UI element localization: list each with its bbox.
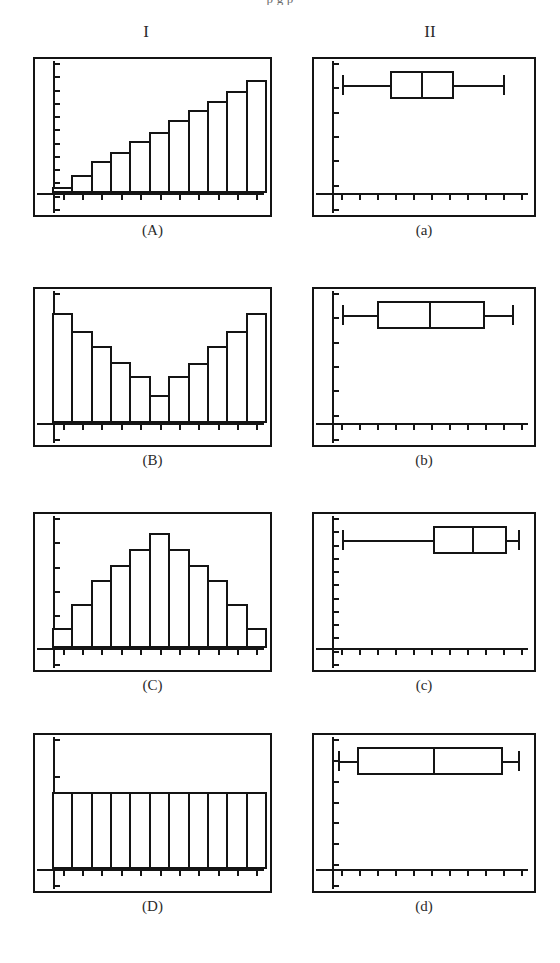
chart-panel-b (312, 287, 536, 447)
y-tick (334, 545, 339, 547)
x-tick (413, 425, 415, 430)
histogram-bar (129, 141, 150, 193)
x-tick (413, 650, 415, 655)
histogram-bar (188, 110, 209, 193)
histogram-bar (168, 792, 189, 869)
x-tick (218, 871, 220, 876)
plot-area-b (332, 295, 530, 423)
x-tick (218, 650, 220, 655)
plot-area-A (53, 65, 266, 193)
x-tick (449, 425, 451, 430)
y-tick (334, 822, 339, 824)
x-tick (121, 650, 123, 655)
histogram-bar (188, 565, 209, 648)
boxplot-max-cap (518, 530, 520, 550)
x-tick (63, 425, 65, 430)
y-tick (55, 156, 60, 158)
y-tick (55, 63, 60, 65)
x-tick (503, 195, 505, 200)
x-tick (341, 425, 343, 430)
y-tick (55, 518, 60, 520)
histogram-bar (110, 362, 131, 423)
y-tick (55, 567, 60, 569)
histogram-bar (168, 549, 189, 648)
histogram-bar (207, 792, 228, 869)
boxplot-min-cap (342, 305, 344, 325)
boxplot-max-cap (503, 75, 505, 95)
x-tick (256, 871, 258, 876)
y-tick (55, 664, 60, 666)
x-tick (413, 871, 415, 876)
histogram-bar (168, 120, 189, 193)
y-tick (334, 843, 339, 845)
y-tick (334, 558, 339, 560)
y-tick (334, 209, 339, 211)
histogram-bar (91, 792, 112, 869)
y-tick (334, 293, 339, 295)
x-tick (237, 650, 239, 655)
column-header-I: I (126, 22, 166, 42)
y-tick (55, 591, 60, 593)
x-tick (179, 871, 181, 876)
histogram-bar (226, 604, 247, 648)
histogram-bar (149, 533, 170, 648)
histogram-bar (91, 346, 112, 423)
histogram-bar (71, 792, 92, 869)
plot-area-C (53, 520, 266, 648)
y-tick (55, 542, 60, 544)
x-tick (467, 425, 469, 430)
y-tick (55, 76, 60, 78)
x-tick (521, 650, 523, 655)
x-tick (237, 871, 239, 876)
panel-caption-A: (A) (33, 222, 272, 239)
x-tick (431, 425, 433, 430)
histogram-bar (207, 346, 228, 423)
x-tick (359, 650, 361, 655)
histogram-bar (207, 101, 228, 193)
chart-panel-D (33, 733, 272, 893)
histogram-bar (246, 792, 267, 869)
x-tick (521, 195, 523, 200)
x-tick (218, 195, 220, 200)
x-tick (101, 195, 103, 200)
histogram-bar (226, 91, 247, 193)
y-tick (55, 615, 60, 617)
x-tick (140, 871, 142, 876)
histogram-bar (168, 376, 189, 423)
x-axis-A (37, 193, 264, 195)
x-tick (485, 650, 487, 655)
panel-caption-a: (a) (312, 222, 536, 239)
x-axis-C (37, 648, 264, 650)
y-tick (334, 185, 339, 187)
x-tick (160, 871, 162, 876)
x-axis-c (316, 648, 528, 650)
histogram-bar (188, 363, 209, 423)
histogram-bar (207, 580, 228, 648)
chart-panel-A (33, 57, 272, 217)
x-tick (179, 425, 181, 430)
histogram-bar (110, 565, 131, 648)
y-tick (55, 182, 60, 184)
y-tick (334, 624, 339, 626)
histogram-bar (52, 313, 73, 423)
chart-panel-c (312, 512, 536, 672)
x-tick (503, 425, 505, 430)
y-tick (334, 390, 339, 392)
x-tick (521, 871, 523, 876)
y-tick (55, 116, 60, 118)
chart-panel-B (33, 287, 272, 447)
x-tick (121, 871, 123, 876)
y-tick (55, 739, 60, 741)
histogram-bar (91, 580, 112, 648)
x-tick (121, 195, 123, 200)
y-tick (334, 739, 339, 741)
x-axis-D (37, 869, 264, 871)
x-tick (341, 871, 343, 876)
boxplot-min-cap (342, 75, 344, 95)
x-tick (63, 871, 65, 876)
boxplot-box (433, 526, 507, 554)
x-tick (101, 871, 103, 876)
boxplot-box (357, 747, 503, 775)
histogram-bar (149, 395, 170, 423)
histogram-bar (52, 792, 73, 869)
